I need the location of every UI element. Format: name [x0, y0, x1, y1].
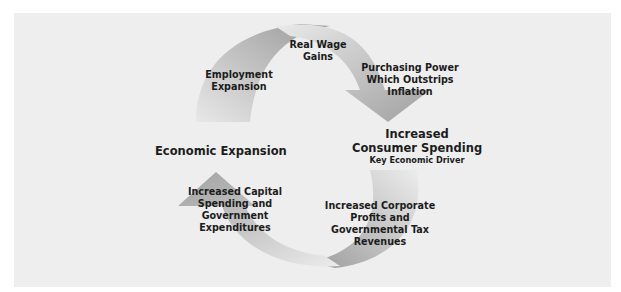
node-economic-expansion: Economic Expansion: [155, 144, 280, 158]
label-capital-spending: Increased Capital Spending and Governmen…: [180, 186, 290, 234]
label-purchasing-power: Purchasing Power Which Outstrips Inflati…: [360, 62, 460, 98]
label-employment-expansion: Employment Expansion: [199, 69, 279, 93]
label-real-wage-gains: Real Wage Gains: [283, 39, 353, 63]
node-consumer-spending: Increased Consumer Spending Key Economic…: [352, 127, 482, 166]
label-corporate-profits: Increased Corporate Profits and Governme…: [320, 200, 440, 248]
